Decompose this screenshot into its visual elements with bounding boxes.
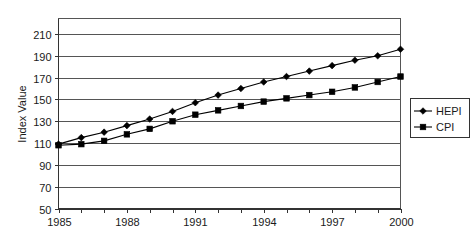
legend-marker-square-icon	[420, 124, 426, 130]
data-point	[56, 142, 62, 148]
y-axis-tick-label: 50	[39, 204, 51, 216]
y-axis-tick-label: 70	[39, 182, 51, 194]
data-point	[101, 138, 107, 144]
data-point	[352, 85, 358, 91]
legend-label: CPI	[436, 121, 454, 133]
data-point	[215, 108, 221, 114]
y-axis-tick-label: 90	[39, 160, 51, 172]
x-axis-tick-label: 1991	[183, 216, 207, 228]
data-point	[79, 141, 85, 147]
line-chart: 507090110130150170190210 198519881991199…	[0, 0, 476, 238]
x-axis-tick-label: 1985	[47, 216, 71, 228]
data-point	[329, 89, 335, 95]
x-axis-tick-label: 2000	[389, 216, 413, 228]
x-axis-tick-label: 1994	[252, 216, 276, 228]
data-point	[284, 96, 290, 102]
y-axis-title: Index Value	[16, 85, 28, 142]
data-point	[398, 74, 404, 80]
y-axis-tick-label: 170	[33, 73, 51, 85]
y-axis-tick-label: 210	[33, 29, 51, 41]
data-point	[193, 112, 199, 118]
plot-area	[59, 19, 401, 210]
data-point	[375, 79, 381, 85]
chart-container: 507090110130150170190210 198519881991199…	[0, 0, 476, 238]
data-point	[124, 132, 130, 138]
data-point	[238, 103, 244, 109]
y-axis-tick-label: 110	[34, 138, 52, 150]
y-axis-tick-label: 130	[33, 116, 51, 128]
data-point	[261, 99, 267, 105]
x-axis-tick-label: 1997	[320, 216, 344, 228]
x-axis-tick-label: 1988	[115, 216, 139, 228]
data-point	[170, 118, 176, 124]
data-point	[307, 92, 313, 98]
data-point	[147, 126, 153, 132]
y-axis-tick-label: 190	[33, 51, 51, 63]
chart-legend: HEPICPI	[411, 99, 470, 138]
y-axis-tick-label: 150	[33, 94, 51, 106]
legend-label: HEPI	[436, 105, 462, 117]
